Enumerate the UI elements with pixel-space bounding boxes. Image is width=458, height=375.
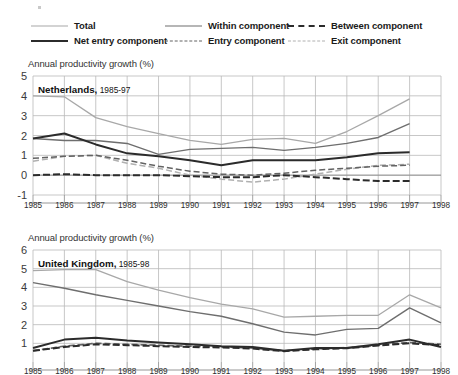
x-tick-label: 1994 [306,367,325,375]
legend-entry-component: Entry component [165,33,285,48]
x-tick-label: 1985 [24,201,43,210]
legend-between-component-swatch-icon [288,20,325,31]
x-tick-label: 1997 [401,201,420,210]
series-line-within-component [33,283,441,335]
legend-row-1: TotalWithin componentBetween component [0,18,458,33]
panel-netherlands: Annual productivity growth (%) Netherlan… [0,58,458,223]
x-tick-label: 1993 [275,201,294,210]
panel-1-axis-title: Annual productivity growth (%) [28,232,154,243]
x-tick-label: 1986 [55,367,74,375]
x-tick-label: 1989 [149,201,168,210]
image-speck [38,6,41,9]
panel-0-title-period: 1985-97 [97,85,130,95]
legend-total-label: Total [74,20,96,31]
legend-exit-component-label: Exit component [331,35,401,46]
legend-within-component: Within component [165,18,289,33]
legend-net-entry-component-swatch-icon [31,35,68,46]
panel-united-kingdom: Annual productivity growth (%) United Ki… [0,232,458,375]
panel-1-chart-title: United Kingdom, 1985-98 [38,258,149,269]
x-tick-label: 1986 [55,201,74,210]
y-tick-label: 2 [21,130,27,142]
x-tick-label: 1992 [244,367,263,375]
legend-entry-component-swatch-icon [165,35,202,46]
legend-total: Total [31,18,96,33]
legend-within-component-swatch-icon [165,20,202,31]
x-tick-label: 1985 [24,367,43,375]
y-tick-label: 5 [21,72,27,82]
y-tick-label: 6 [21,246,27,256]
legend-within-component-label: Within component [208,20,289,31]
legend-net-entry-component: Net entry component [31,33,167,48]
legend-total-swatch-icon [31,20,68,31]
legend-between-component: Between component [288,18,422,33]
y-tick-label: 5 [21,263,27,275]
legend-entry-component-label: Entry component [208,35,285,46]
y-tick-label: 3 [21,300,27,312]
x-tick-label: 1997 [401,367,420,375]
panel-1-title-country: United Kingdom, [38,258,116,269]
x-tick-label: 1987 [87,367,106,375]
x-tick-label: 1992 [244,201,263,210]
x-tick-label: 1993 [275,367,294,375]
x-tick-label: 1991 [212,201,231,210]
x-tick-label: 1990 [181,367,200,375]
x-tick-label: 1987 [87,201,106,210]
y-tick-label: -1 [17,189,27,201]
y-tick-label: 1 [21,337,27,349]
panel-0-title-country: Netherlands, [38,84,97,95]
y-tick-label: 3 [21,110,27,122]
y-tick-label: 0 [21,169,27,181]
panel-0-chart-title: Netherlands, 1985-97 [38,84,130,95]
x-tick-label: 1988 [118,367,137,375]
y-tick-label: 4 [21,90,27,102]
legend-between-component-label: Between component [331,20,422,31]
panel-1-title-period: 1985-98 [116,259,149,269]
y-tick-label: 1 [21,149,27,161]
legend-exit-component-swatch-icon [288,35,325,46]
x-tick-label: 1990 [181,201,200,210]
x-tick-label: 1991 [212,367,231,375]
x-tick-label: 1989 [149,367,168,375]
x-tick-label: 1996 [369,201,388,210]
y-tick-label: 2 [21,319,27,331]
series-line-total [33,270,441,318]
x-tick-label: 1996 [369,367,388,375]
legend-net-entry-component-label: Net entry component [74,35,167,46]
x-tick-label: 1988 [118,201,137,210]
x-tick-label: 1995 [338,201,357,210]
legend-row-2: Net entry componentEntry componentExit c… [0,33,458,48]
x-tick-label: 1998 [432,367,451,375]
legend-exit-component: Exit component [288,33,401,48]
x-tick-label: 1995 [338,367,357,375]
x-tick-label: 1994 [306,201,325,210]
chart-legend: TotalWithin componentBetween component N… [0,18,458,54]
panel-0-axis-title: Annual productivity growth (%) [28,58,154,69]
y-tick-label: 4 [21,281,27,293]
x-tick-label: 1998 [432,201,451,210]
